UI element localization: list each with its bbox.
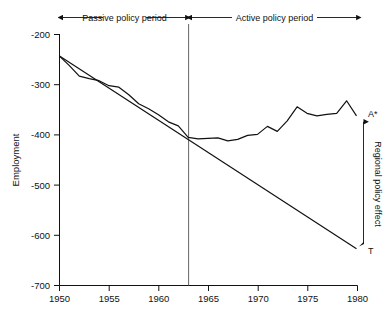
x-tick-label: 1960 [148,293,169,304]
y-tick-label: -200 [31,29,50,40]
endpoint-label-actual: A* [368,109,378,119]
y-axis-title: Employment [10,133,21,186]
x-tick-label: 1970 [248,293,269,304]
y-tick-label: -300 [31,79,50,90]
y-tick-label: -600 [31,230,50,241]
y-tick-label: -500 [31,180,50,191]
active-period-annotation: Active policy period [192,13,357,23]
active-period-label: Active policy period [236,13,314,23]
x-tick-label: 1975 [297,293,318,304]
regional-policy-effect-annotation: Regional policy effect [364,122,384,244]
regional-policy-effect-label: Regional policy effect [373,141,383,227]
x-axis-ticks [60,286,358,292]
y-tick-label: -700 [31,280,50,291]
y-axis-ticks [54,35,60,286]
x-tick-label: 1950 [49,293,70,304]
x-axis-tick-labels: 1950 1955 1960 1965 1970 1975 1980 [49,293,368,304]
endpoint-label-trend: T [368,246,374,256]
passive-period-label: Passive policy period [82,13,167,23]
x-tick-label: 1955 [99,293,120,304]
y-axis-tick-labels: -200 -300 -400 -500 -600 -700 [31,29,50,291]
employment-policy-chart: -200 -300 -400 -500 -600 -700 1950 1955 … [0,0,386,314]
axis-lines [60,34,358,286]
series-extrapolated-trend [60,56,357,249]
x-tick-label: 1980 [347,293,368,304]
x-tick-label: 1965 [198,293,219,304]
chart-canvas: -200 -300 -400 -500 -600 -700 1950 1955 … [0,0,386,314]
y-tick-label: -400 [31,129,50,140]
series-actual-employment [60,56,357,141]
passive-period-annotation: Passive policy period [63,13,186,23]
